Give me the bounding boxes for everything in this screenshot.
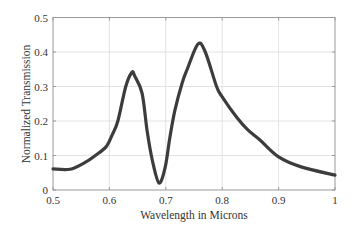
x-tick-labels: 0.50.60.70.80.91 <box>46 194 338 206</box>
transmission-chart: 0.50.60.70.80.91 00.10.20.30.40.5 Wavele… <box>0 0 354 230</box>
transmission-curve <box>53 43 335 183</box>
y-tick-label: 0 <box>43 184 49 196</box>
x-tick-label: 0.9 <box>272 194 286 206</box>
x-tick-label: 0.7 <box>159 194 173 206</box>
x-tick-label: 0.8 <box>215 194 229 206</box>
x-tick-label: 0.5 <box>46 194 60 206</box>
y-tick-label: 0.1 <box>34 150 48 162</box>
y-tick-label: 0.2 <box>34 115 48 127</box>
x-axis-label: Wavelength in Microns <box>140 209 248 222</box>
y-tick-labels: 00.10.20.30.40.5 <box>34 12 48 197</box>
y-tick-label: 0.3 <box>34 81 48 93</box>
x-tick-label: 0.6 <box>103 194 117 206</box>
y-tick-label: 0.5 <box>34 12 48 24</box>
y-axis-label: Normalized Transmission <box>20 44 32 163</box>
y-tick-label: 0.4 <box>34 46 48 58</box>
x-tick-label: 1 <box>332 194 338 206</box>
